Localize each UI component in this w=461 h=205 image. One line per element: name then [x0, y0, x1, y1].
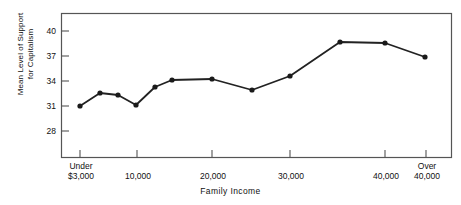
data-point — [115, 92, 120, 97]
y-tick-marks — [62, 31, 70, 131]
x-axis-title: Family Income — [0, 186, 461, 196]
x-tick-label-30000: 30,000 — [265, 171, 317, 181]
y-tick-label-40: 40 — [30, 26, 56, 36]
x-tick-label-10000: 10,000 — [112, 171, 164, 181]
y-tick-label-28: 28 — [30, 126, 56, 136]
x-tick-label-line-1: Over — [401, 161, 453, 171]
data-point-markers — [77, 39, 427, 108]
data-point — [249, 87, 254, 92]
x-tick-label-line-2: $3,000 — [55, 171, 107, 181]
plot-frame — [62, 14, 452, 158]
chart-figure: Mean Level of Support for Capitalism 40 … — [0, 0, 461, 205]
x-tick-label-20000: 20,000 — [187, 171, 239, 181]
y-tick-label-34: 34 — [30, 76, 56, 86]
data-point — [97, 90, 102, 95]
x-tick-label-over-40000: Over 40,000 — [401, 161, 453, 181]
y-axis-title-line-1: Mean Level of Support — [16, 0, 26, 124]
x-tick-label-under-3000: Under $3,000 — [55, 161, 107, 181]
data-point — [133, 102, 138, 107]
data-point — [337, 39, 342, 44]
y-tick-label-31: 31 — [30, 101, 56, 111]
data-point — [152, 84, 157, 89]
data-point — [169, 77, 174, 82]
data-line — [80, 42, 425, 106]
x-tick-marks — [80, 150, 426, 158]
data-point — [422, 54, 427, 59]
x-tick-label-line-2: 40,000 — [401, 171, 453, 181]
data-point — [209, 76, 214, 81]
data-point — [77, 103, 82, 108]
y-tick-label-37: 37 — [30, 51, 56, 61]
x-tick-label-line-1: Under — [55, 161, 107, 171]
data-point — [287, 73, 292, 78]
data-point — [382, 40, 387, 45]
